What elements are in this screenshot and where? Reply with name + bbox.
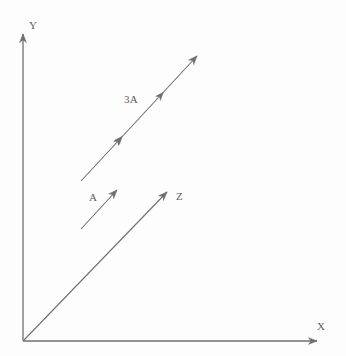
vector-diagram-canvas [0,0,346,356]
vector-3a-label: 3A [124,94,138,105]
y-axis-label: Y [29,20,37,31]
vector-z-label: Z [176,191,183,202]
vector-z [24,192,167,340]
vector-3a-arrowhead-2 [154,95,161,103]
vector-a-label: A [89,192,97,203]
vector-a [81,190,117,229]
x-axis-label: X [317,321,325,332]
vector-z-line [24,192,167,340]
vector-a-line [81,190,117,229]
vector-3a [81,56,197,181]
vector-3a-line [81,56,197,181]
vector-3a-arrowhead-1 [113,139,120,147]
vector-diagram-figure: Y X A 3A Z [0,0,346,356]
